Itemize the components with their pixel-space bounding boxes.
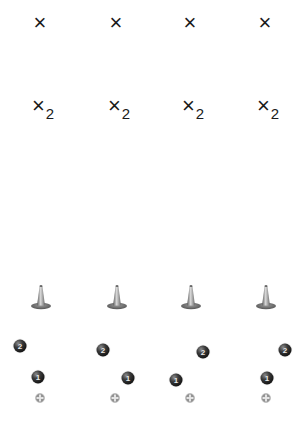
ball-1: 1 — [261, 372, 274, 385]
dotted-marker-icon — [35, 393, 45, 403]
x2-label-base: × — [32, 93, 45, 118]
x-label: × — [110, 12, 123, 34]
dotted-marker-icon — [110, 393, 120, 403]
x2-label-subscript: 2 — [46, 105, 54, 122]
ball-1: 1 — [170, 374, 183, 387]
ball-2: 2 — [14, 340, 27, 353]
ball-2: 2 — [97, 344, 110, 357]
cone-icon — [179, 284, 203, 310]
dotted-marker-icon — [261, 393, 271, 403]
x2-label: ×2 — [108, 95, 130, 119]
ball-2: 2 — [279, 344, 292, 357]
ball-1: 1 — [32, 371, 45, 384]
x2-label-base: × — [182, 93, 195, 118]
cone-icon — [105, 284, 129, 310]
x2-label: ×2 — [182, 95, 204, 119]
x2-label-subscript: 2 — [122, 105, 130, 122]
x-label: × — [259, 12, 272, 34]
dotted-marker-icon — [185, 393, 195, 403]
x2-label-base: × — [257, 93, 270, 118]
cone-icon — [29, 284, 53, 310]
x-label: × — [184, 12, 197, 34]
x2-label-subscript: 2 — [271, 105, 279, 122]
cone-icon — [254, 284, 278, 310]
ball-2: 2 — [197, 346, 210, 359]
ball-1: 1 — [122, 372, 135, 385]
x2-label: ×2 — [32, 95, 54, 119]
x-label: × — [34, 12, 47, 34]
x2-label: ×2 — [257, 95, 279, 119]
x2-label-base: × — [108, 93, 121, 118]
x2-label-subscript: 2 — [196, 105, 204, 122]
